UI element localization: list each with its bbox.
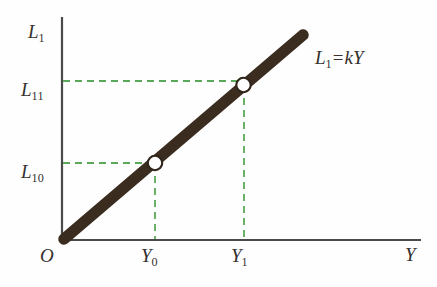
curve-equation-label: L1=kY [315,48,364,67]
y-tick-label-l10: L10 [21,162,44,181]
x-axis-label: Y [405,245,416,264]
y-axis-label: L1 [28,22,45,41]
y-axis-label-subscript: 1 [39,31,45,45]
x-tick-label-y0: Y0 [141,246,158,265]
data-point-marker-1 [236,78,250,92]
x-tick-label-y1: Y1 [231,246,248,265]
x-tick-label-y1-subscript: 1 [242,255,248,269]
curve-equation-operator: = [333,47,344,68]
origin-label: O [40,246,54,265]
curve-equation-subscript: 1 [326,57,332,71]
demand-line-l1-equals-ky [64,35,303,239]
curve-equation-variable: Y [353,47,364,68]
curve-equation-slope: k [345,47,353,68]
chart-canvas [0,0,437,287]
data-point-marker-0 [148,156,162,170]
x-tick-label-y0-subscript: 0 [152,255,158,269]
money-demand-chart: L1 L11 L10 O Y0 Y1 Y L1=kY [0,0,437,287]
y-tick-label-l11-subscript: 11 [32,89,44,103]
y-tick-label-l11: L11 [21,80,44,99]
y-tick-label-l10-subscript: 10 [32,171,45,185]
